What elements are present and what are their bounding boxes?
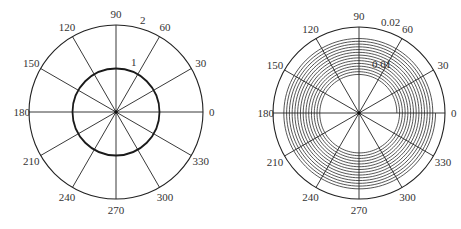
radial-label-1: 1 bbox=[131, 56, 137, 68]
polar-charts: 030609012015018021024027030033012 030609… bbox=[0, 0, 461, 229]
angle-label-180: 180 bbox=[258, 107, 275, 119]
angle-label-150: 150 bbox=[23, 57, 40, 69]
angle-label-30: 30 bbox=[195, 57, 207, 69]
radial-label-0.02: 0.02 bbox=[381, 16, 400, 28]
angle-label-330: 330 bbox=[435, 156, 452, 168]
angle-label-120: 120 bbox=[59, 21, 76, 33]
angle-label-90: 90 bbox=[354, 10, 366, 22]
angle-label-300: 300 bbox=[157, 191, 174, 203]
angle-label-30: 30 bbox=[438, 59, 450, 71]
angle-label-240: 240 bbox=[302, 191, 319, 203]
angle-label-0: 0 bbox=[451, 107, 457, 119]
angle-label-330: 330 bbox=[193, 155, 210, 167]
polar-plot-spiral: 03060901201501802102402703003300.010.02 bbox=[258, 10, 458, 216]
angle-label-210: 210 bbox=[23, 155, 40, 167]
angle-label-300: 300 bbox=[399, 191, 416, 203]
origin-dot bbox=[357, 111, 361, 115]
angle-label-180: 180 bbox=[14, 106, 31, 118]
angle-label-60: 60 bbox=[402, 23, 414, 35]
radial-label-2: 2 bbox=[140, 14, 146, 26]
angle-label-240: 240 bbox=[59, 191, 76, 203]
polar-plot-circle: 030609012015018021024027030033012 bbox=[14, 8, 216, 216]
radial-label-0.01: 0.01 bbox=[372, 58, 391, 70]
angle-label-270: 270 bbox=[351, 204, 368, 216]
origin-dot bbox=[114, 110, 118, 114]
angle-label-150: 150 bbox=[267, 59, 284, 71]
angle-label-120: 120 bbox=[302, 23, 319, 35]
angle-label-0: 0 bbox=[209, 106, 215, 118]
angle-label-90: 90 bbox=[111, 8, 123, 20]
angle-label-270: 270 bbox=[108, 204, 125, 216]
angle-label-210: 210 bbox=[267, 156, 284, 168]
angle-label-60: 60 bbox=[160, 21, 172, 33]
